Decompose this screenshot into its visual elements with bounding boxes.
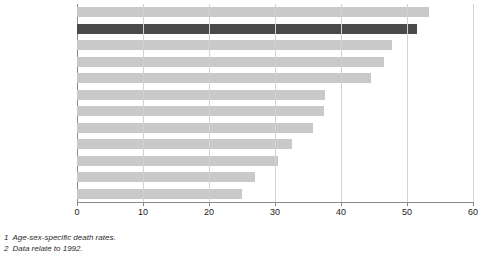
bar-denmark (77, 7, 429, 17)
footnote-text: Age-sex-specific death rates. (12, 233, 115, 242)
bar-italy (77, 106, 324, 116)
x-tick-label: 0 (62, 207, 92, 218)
footnote-1: 1Age-sex-specific death rates. (4, 232, 304, 243)
bar-irish-republic (77, 90, 325, 100)
x-tick (407, 202, 408, 206)
bar-chart: Denmark2United Kingdom2Belgium3Netherlan… (0, 0, 482, 260)
bar-greece (77, 189, 242, 199)
x-tick (275, 202, 276, 206)
gridline (143, 4, 144, 202)
gridline (209, 4, 210, 202)
bar-luxembourg (77, 139, 292, 149)
footnotes: 1Age-sex-specific death rates. 2Data rel… (4, 232, 304, 254)
gridline (473, 4, 474, 202)
x-tick-label: 60 (458, 207, 482, 218)
x-tick-label: 20 (194, 207, 224, 218)
bar-portugal (77, 156, 278, 166)
bar-netherlands (77, 57, 384, 67)
x-tick-label: 50 (392, 207, 422, 218)
bar-france (77, 123, 313, 133)
x-tick (209, 202, 210, 206)
x-tick (77, 202, 78, 206)
bar-united-kingdom (77, 24, 417, 34)
footnote-number: 2 (4, 244, 8, 253)
x-tick-label: 30 (260, 207, 290, 218)
x-tick (143, 202, 144, 206)
x-tick-label: 40 (326, 207, 356, 218)
footnote-2: 2Data relate to 1992. (4, 243, 304, 254)
bar-spain (77, 172, 255, 182)
gridline (341, 4, 342, 202)
x-tick (473, 202, 474, 206)
x-tick (341, 202, 342, 206)
footnote-text: Data relate to 1992. (12, 244, 82, 253)
gridline (407, 4, 408, 202)
bar-belgium (77, 40, 392, 50)
footnote-number: 1 (4, 233, 8, 242)
x-tick-label: 10 (128, 207, 158, 218)
bar-germany (77, 73, 371, 83)
gridline (275, 4, 276, 202)
